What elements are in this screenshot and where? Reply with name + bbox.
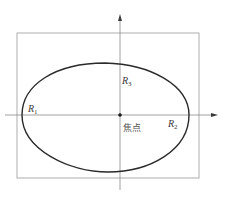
label-r3: R3 [121, 75, 132, 88]
label-r2: R2 [167, 118, 178, 131]
frame-rectangle [17, 33, 199, 178]
label-focus: 焦点 [123, 122, 141, 133]
label-r1: R1 [27, 103, 38, 116]
x-axis-arrow-icon [211, 113, 218, 117]
focus-boundary-diagram: R3 R1 R2 焦点 [0, 0, 225, 200]
y-axis-arrow-icon [118, 14, 122, 21]
focus-point [118, 113, 122, 117]
boundary-curve [22, 63, 189, 172]
